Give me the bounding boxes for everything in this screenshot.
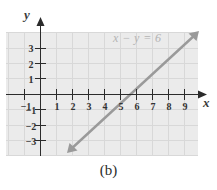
x-tick-label-9: 9	[183, 101, 188, 112]
x-tick-label-4: 4	[103, 101, 108, 112]
y-tick-label--1: −1	[26, 105, 37, 116]
y-tick-label-2: 2	[29, 59, 34, 70]
y-axis-arrowhead	[37, 17, 45, 26]
x-tick-label-6: 6	[135, 101, 140, 112]
y-tick-label--2: −2	[26, 121, 37, 132]
x-tick-label-5: 5	[119, 101, 124, 112]
x-tick-label-7: 7	[151, 101, 156, 112]
x-tick-label-8: 8	[167, 101, 172, 112]
x-tick-label-2: 2	[71, 101, 76, 112]
x-tick-label-1: 1	[55, 101, 60, 112]
figure-caption: (b)	[0, 162, 217, 179]
y-axis-label: y	[24, 7, 30, 23]
y-tick-label-1: 1	[29, 74, 34, 85]
graph-figure: y x x − y = 6 −1 1 2 3 4 5 6 7 8 9 3 2 1…	[0, 0, 217, 190]
y-tick-label-3: 3	[29, 43, 34, 54]
y-tick-label--3: −3	[26, 136, 37, 147]
x-axis-label: x	[203, 95, 210, 111]
x-tick-label-3: 3	[87, 101, 92, 112]
equation-annotation: x − y = 6	[113, 31, 161, 46]
